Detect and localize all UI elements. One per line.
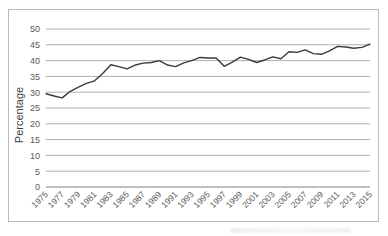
y-axis-title: Percentage <box>13 87 25 143</box>
x-tick-label: 1975 <box>29 189 50 210</box>
x-tick-label: 1981 <box>78 189 99 210</box>
x-tick-label: 2005 <box>272 189 293 210</box>
x-tick-label: 1979 <box>62 189 83 210</box>
x-tick-label: 2007 <box>289 189 310 210</box>
x-tick-label: 1995 <box>191 189 212 210</box>
x-tick-label: 1977 <box>46 189 67 210</box>
x-axis-tick-labels: 1975197719791981198319851987198919911993… <box>29 189 374 210</box>
y-tick-label: 40 <box>30 56 40 66</box>
y-tick-label: 0 <box>35 182 40 192</box>
x-tick-label: 1991 <box>159 189 180 210</box>
x-tick-label: 1997 <box>208 189 229 210</box>
y-tick-label: 45 <box>30 40 40 50</box>
x-tick-label: 1999 <box>224 189 245 210</box>
x-tick-label: 1993 <box>175 189 196 210</box>
gridlines <box>46 29 370 187</box>
x-tick-label: 2003 <box>256 189 277 210</box>
page-artifact <box>230 228 350 233</box>
x-tick-label: 1983 <box>94 189 115 210</box>
line-chart: 05101520253035404550 1975197719791981198… <box>9 10 378 221</box>
x-tick-label: 1987 <box>127 189 148 210</box>
x-tick-label: 1985 <box>110 189 131 210</box>
x-tick-label: 2015 <box>353 189 374 210</box>
x-tick-label: 2011 <box>322 189 342 209</box>
y-tick-label: 50 <box>30 24 40 34</box>
y-tick-label: 5 <box>35 167 40 177</box>
x-tick-label: 2001 <box>240 189 261 210</box>
y-tick-label: 10 <box>30 151 40 161</box>
x-tick-label: 2009 <box>305 189 326 210</box>
y-tick-label: 25 <box>30 103 40 113</box>
y-tick-label: 15 <box>30 135 40 145</box>
chart-frame: 05101520253035404550 1975197719791981198… <box>8 9 379 222</box>
y-tick-label: 35 <box>30 72 40 82</box>
y-axis-tick-labels: 05101520253035404550 <box>30 24 40 192</box>
y-tick-label: 20 <box>30 119 40 129</box>
data-series-line <box>46 44 370 98</box>
y-tick-label: 30 <box>30 88 40 98</box>
figure: 05101520253035404550 1975197719791981198… <box>0 0 388 236</box>
x-tick-label: 1989 <box>143 189 164 210</box>
x-tick-label: 2013 <box>337 189 358 210</box>
